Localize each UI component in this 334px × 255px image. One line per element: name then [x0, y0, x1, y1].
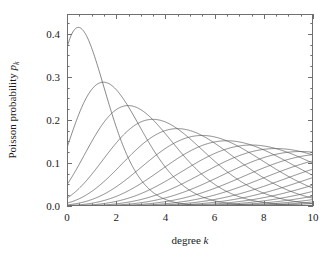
chart-canvas: 0246810 0.00.10.20.30.4 degree k Poisson…	[0, 0, 334, 255]
poisson-curve	[67, 27, 313, 206]
poisson-curve	[67, 82, 313, 206]
y-tick-label: 0.2	[46, 114, 60, 126]
poisson-curve	[67, 152, 313, 206]
x-axis-tick-labels: 0246810	[64, 211, 319, 223]
x-tick-label: 8	[261, 211, 267, 223]
x-axis-label: degree k	[172, 234, 210, 246]
poisson-curve	[67, 119, 313, 203]
plot-frame	[68, 15, 313, 206]
axis-ticks-group	[67, 14, 314, 207]
x-tick-label: 10	[308, 211, 320, 223]
x-tick-label: 2	[113, 211, 119, 223]
x-tick-label: 6	[212, 211, 218, 223]
poisson-curve	[67, 129, 313, 203]
y-axis-tick-labels: 0.00.10.20.30.4	[46, 28, 60, 212]
poisson-curve	[67, 135, 313, 204]
poisson-probability-chart: 0246810 0.00.10.20.30.4 degree k Poisson…	[0, 0, 334, 255]
y-axis-label: Poisson probability pk	[6, 61, 21, 159]
y-tick-label: 0.1	[46, 157, 60, 169]
y-tick-label: 0.0	[46, 200, 60, 212]
x-tick-label: 4	[163, 211, 169, 223]
y-tick-label: 0.4	[46, 28, 60, 40]
axes-group	[68, 15, 313, 206]
curve-series-group	[67, 27, 313, 206]
y-tick-label: 0.3	[46, 71, 60, 83]
x-tick-label: 0	[64, 211, 70, 223]
